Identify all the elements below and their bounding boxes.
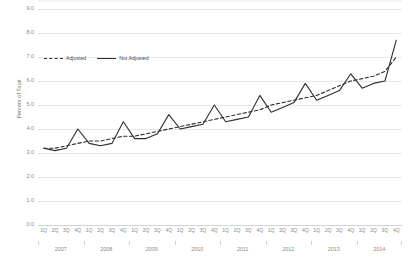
x-axis-year-label: 2011 bbox=[220, 241, 266, 259]
x-axis-year-label: 2010 bbox=[175, 241, 221, 259]
year-separator-tick bbox=[129, 241, 130, 245]
x-axis-quarter-label: 3Q bbox=[106, 228, 117, 234]
x-axis-quarter-label: 2Q bbox=[140, 228, 151, 234]
x-axis-quarter-label: 3Q bbox=[334, 228, 345, 234]
x-axis-quarter-label: 4Q bbox=[300, 228, 311, 234]
year-text: 2014 bbox=[373, 246, 385, 252]
x-axis-quarter-label: 1Q bbox=[175, 228, 186, 234]
year-text: 2009 bbox=[146, 246, 158, 252]
x-axis-quarter-label: 2Q bbox=[368, 228, 379, 234]
year-text: 2010 bbox=[191, 246, 203, 252]
x-axis-quarter-label: 3Q bbox=[197, 228, 208, 234]
year-separator-tick bbox=[84, 241, 85, 245]
chart-top-edge bbox=[38, 0, 402, 2]
x-axis-quarter-labels: 1Q2Q3Q4Q1Q2Q3Q4Q1Q2Q3Q4Q1Q2Q3Q4Q1Q2Q3Q4Q… bbox=[38, 228, 402, 234]
year-text: 2011 bbox=[237, 246, 249, 252]
y-axis-tick-label: 4.0 bbox=[16, 126, 34, 131]
x-axis-quarter-label: 1Q bbox=[84, 228, 95, 234]
x-axis-quarter-label: 4Q bbox=[254, 228, 265, 234]
chart-legend: Adjusted Not Adjusted bbox=[44, 55, 149, 61]
plot-area bbox=[38, 9, 402, 225]
x-axis-quarter-label: 1Q bbox=[129, 228, 140, 234]
x-axis-quarter-label: 4Q bbox=[72, 228, 83, 234]
x-axis: 1Q2Q3Q4Q1Q2Q3Q4Q1Q2Q3Q4Q1Q2Q3Q4Q1Q2Q3Q4Q… bbox=[38, 225, 402, 265]
x-axis-year-label: 2008 bbox=[84, 241, 130, 259]
x-axis-quarter-label: 2Q bbox=[95, 228, 106, 234]
x-axis-quarter-label: 2Q bbox=[186, 228, 197, 234]
legend-label-not-adjusted: Not Adjusted bbox=[119, 55, 148, 61]
x-axis-quarter-label: 3Q bbox=[379, 228, 390, 234]
x-axis-year-labels: 20072008200920102011201220132014 bbox=[38, 241, 402, 259]
x-axis-quarter-label: 2Q bbox=[277, 228, 288, 234]
legend-entry-not-adjusted: Not Adjusted bbox=[97, 55, 148, 61]
series-lines bbox=[38, 9, 402, 225]
solid-line-icon bbox=[97, 58, 116, 59]
year-separator-tick bbox=[38, 241, 39, 245]
x-axis-year-label: 2007 bbox=[38, 241, 84, 259]
x-axis-quarter-label: 3Q bbox=[61, 228, 72, 234]
y-axis-tick-label: 9.0 bbox=[16, 6, 34, 11]
x-axis-quarter-label: 4Q bbox=[391, 228, 402, 234]
x-axis-quarter-label: 1Q bbox=[266, 228, 277, 234]
x-axis-quarter-label: 4Q bbox=[345, 228, 356, 234]
y-axis-tick-label: 5.0 bbox=[16, 102, 34, 107]
x-axis-year-label: 2013 bbox=[311, 241, 357, 259]
x-axis-year-label: 2012 bbox=[266, 241, 312, 259]
x-axis-quarter-label: 3Q bbox=[152, 228, 163, 234]
x-axis-quarter-label: 3Q bbox=[243, 228, 254, 234]
y-axis-tick-label: 3.0 bbox=[16, 150, 34, 155]
y-axis-tick-label: 2.0 bbox=[16, 174, 34, 179]
year-separator-tick bbox=[175, 241, 176, 245]
legend-label-adjusted: Adjusted bbox=[66, 55, 86, 61]
x-axis-quarter-label: 3Q bbox=[288, 228, 299, 234]
y-axis-tick-label: 7.0 bbox=[16, 54, 34, 59]
y-axis-tick-label: 6.0 bbox=[16, 78, 34, 83]
x-axis-quarter-label: 1Q bbox=[38, 228, 49, 234]
y-axis-tick-label: 8.0 bbox=[16, 30, 34, 35]
x-axis-quarter-label: 2Q bbox=[49, 228, 60, 234]
year-separator-tick bbox=[357, 241, 358, 245]
x-axis-quarter-label: 2Q bbox=[322, 228, 333, 234]
year-separator-tick bbox=[220, 241, 221, 245]
x-axis-quarter-label: 4Q bbox=[209, 228, 220, 234]
y-axis-tick-label: 0.0 bbox=[16, 222, 34, 227]
x-axis-quarter-label: 1Q bbox=[311, 228, 322, 234]
year-text: 2013 bbox=[328, 246, 340, 252]
year-separator-tick bbox=[311, 241, 312, 245]
x-axis-year-label: 2009 bbox=[129, 241, 175, 259]
x-axis-quarter-label: 1Q bbox=[220, 228, 231, 234]
line-adjusted bbox=[44, 57, 397, 148]
y-axis-tick-label: 1.0 bbox=[16, 198, 34, 203]
legend-entry-adjusted: Adjusted bbox=[44, 55, 86, 61]
x-axis-quarter-label: 4Q bbox=[118, 228, 129, 234]
x-axis-quarter-label: 4Q bbox=[163, 228, 174, 234]
year-text: 2008 bbox=[100, 246, 112, 252]
x-axis-quarter-label: 1Q bbox=[357, 228, 368, 234]
year-separator-tick bbox=[266, 241, 267, 245]
year-text: 2012 bbox=[282, 246, 294, 252]
year-text: 2007 bbox=[55, 246, 67, 252]
x-axis-line bbox=[38, 225, 402, 226]
line-chart: Percent of Total 0.01.02.03.04.05.06.07.… bbox=[0, 0, 410, 267]
dashed-line-icon bbox=[44, 58, 63, 59]
x-axis-quarter-label: 2Q bbox=[231, 228, 242, 234]
x-axis-year-label: 2014 bbox=[357, 241, 403, 259]
